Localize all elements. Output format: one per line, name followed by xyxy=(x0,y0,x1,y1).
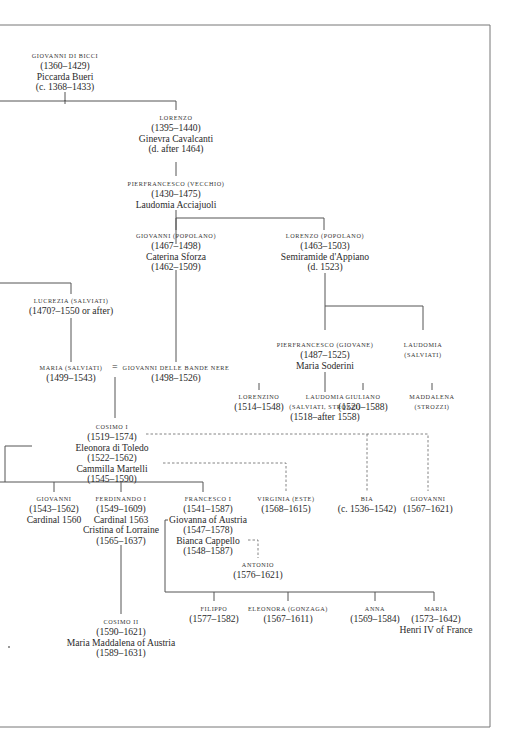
person-detail: (1430–1475) xyxy=(128,189,225,200)
person-detail: (1543–1562) xyxy=(27,504,82,515)
person-maria-france: Maria (1573–1642) Henri IV of France xyxy=(399,604,472,635)
spouse-name: Laudomia Acciajuoli xyxy=(128,200,225,211)
person-detail: (1395–1440) xyxy=(139,123,213,134)
person-bia: Bia (c. 1536–1542) xyxy=(338,494,397,515)
person-detail: (1463–1503) xyxy=(281,241,369,252)
person-detail: (d. after 1464) xyxy=(139,144,213,155)
spouse-name: Henri IV of France xyxy=(399,625,472,636)
person-detail: (1522–1562) xyxy=(75,453,148,464)
person-detail: (1518–after 1558) xyxy=(289,412,360,423)
person-detail: (1545–1590) xyxy=(75,474,148,485)
person-detail: (1577–1582) xyxy=(189,614,239,625)
person-pierfrancesco-giovane: Pierfrancesco (Giovane) (1487–1525) Mari… xyxy=(277,340,374,371)
person-giovanni-cardinal: Giovanni (1543–1562) Cardinal 1560 xyxy=(27,494,82,525)
person-giovanni-di-bicci: Giovanni di Bicci (1360–1429) Piccarda B… xyxy=(32,51,98,93)
person-name: Laudomia xyxy=(404,340,442,350)
person-detail: (1589–1631) xyxy=(67,648,175,659)
person-detail: Cardinal 1560 xyxy=(27,515,82,526)
person-detail: (1567–1621) xyxy=(403,504,453,515)
person-detail: (1568–1615) xyxy=(257,504,314,515)
person-detail: (1541–1587) xyxy=(169,504,247,515)
person-cosimo-ii: Cosimo II (1590–1621) Maria Maddalena of… xyxy=(67,617,175,659)
person-detail: (1576–1621) xyxy=(233,570,283,581)
person-lucrezia-salviati: Lucrezia (Salviati) (1470?–1550 or after… xyxy=(29,296,113,317)
person-virginia-este: Virginia (Este) (1568–1615) xyxy=(257,494,314,515)
person-lorenzo-popolano: Lorenzo (Popolano) (1463–1503) Semiramid… xyxy=(281,231,369,273)
person-detail: (1590–1621) xyxy=(67,627,175,638)
person-ferdinando-i: Ferdinando I (1549–1609) Cardinal 1563 C… xyxy=(83,494,159,546)
person-detail: (1360–1429) xyxy=(32,61,98,72)
person-detail: (1548–1587) xyxy=(169,546,247,557)
person-detail: (d. 1523) xyxy=(281,262,369,273)
marriage-sign: = xyxy=(112,361,118,372)
person-filippo: Filippo (1577–1582) xyxy=(189,604,239,625)
person-detail: (c. 1536–1542) xyxy=(338,504,397,515)
stray-mark xyxy=(8,646,10,648)
person-name: Maddalena xyxy=(409,392,454,402)
spouse-name: Maria Soderini xyxy=(277,361,374,372)
person-detail: (c. 1368–1433) xyxy=(32,82,98,93)
person-maddalena-strozzi: Maddalena (Strozzi) xyxy=(409,392,454,412)
person-detail: (1565–1637) xyxy=(83,536,159,547)
person-detail: (1498–1526) xyxy=(123,373,230,384)
person-detail: (1547–1578) xyxy=(169,525,247,536)
person-francesco-i: Francesco I (1541–1587) Giovanna of Aust… xyxy=(169,494,247,557)
person-detail: (1520–1588) xyxy=(338,402,388,413)
person-cosimo-i: Cosimo I (1519–1574) Eleonora di Toledo … xyxy=(75,422,148,485)
person-detail: (1470?–1550 or after) xyxy=(29,306,113,317)
person-detail: (1549–1609) xyxy=(83,504,159,515)
person-detail: (1514–1548) xyxy=(234,402,284,413)
person-detail: (1569–1584) xyxy=(350,614,400,625)
person-giovanni-illegitimate: Giovanni (1567–1621) xyxy=(403,494,453,515)
person-detail: (Strozzi) xyxy=(409,402,454,412)
person-detail: (1573–1642) xyxy=(399,614,472,625)
person-giovanni-popolano: Giovanni (Popolano) (1467–1498) Caterina… xyxy=(136,231,216,273)
person-maria-salviati: Maria (Salviati) (1499–1543) xyxy=(40,363,103,384)
person-detail: (Salviati) xyxy=(404,350,442,360)
person-lorenzino: Lorenzino (1514–1548) xyxy=(234,392,284,413)
person-eleonora-gonzaga: Eleonora (Gonzaga) (1567–1611) xyxy=(248,604,328,625)
person-detail: (1567–1611) xyxy=(248,614,328,625)
person-detail: (1487–1525) xyxy=(277,350,374,361)
person-detail: (1467–1498) xyxy=(136,241,216,252)
person-laudomia-salviati: Laudomia (Salviati) xyxy=(404,340,442,360)
person-detail: (1499–1543) xyxy=(40,373,103,384)
person-anna: Anna (1569–1584) xyxy=(350,604,400,625)
person-antonio: Antonio (1576–1621) xyxy=(233,560,283,581)
person-lorenzo: Lorenzo (1395–1440) Ginevra Cavalcanti (… xyxy=(139,113,213,155)
spouse-name: Cristina of Lorraine xyxy=(83,525,159,536)
person-giuliano: Giuliano (1520–1588) xyxy=(338,392,388,413)
person-detail: (1462–1509) xyxy=(136,262,216,273)
person-giovanni-delle-bande-nere: Giovanni delle Bande Nere (1498–1526) xyxy=(123,363,230,384)
person-detail: (1519–1574) xyxy=(75,432,148,443)
person-pierfrancesco-vecchio: Pierfrancesco (Vecchio) (1430–1475) Laud… xyxy=(128,179,225,210)
